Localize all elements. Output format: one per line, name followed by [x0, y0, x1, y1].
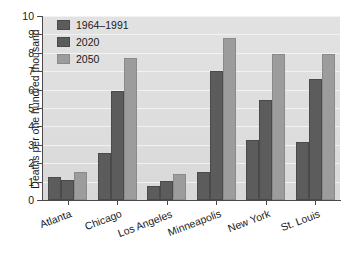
- legend-item: 1964–1991: [57, 17, 129, 32]
- x-tick-label: Los Angeles: [116, 207, 174, 239]
- bar: [74, 172, 87, 200]
- bar: [160, 181, 173, 200]
- y-tick-label: 9: [12, 28, 34, 40]
- y-axis-line: [42, 16, 43, 201]
- bar: [272, 54, 285, 200]
- y-tick-label: 4: [12, 120, 34, 132]
- y-tick-label: 7: [12, 65, 34, 77]
- y-tick-label: 1: [12, 176, 34, 188]
- legend-swatch-icon: [57, 20, 70, 30]
- bar: [322, 54, 335, 200]
- x-tick-label: Minneapolis: [166, 207, 223, 238]
- bar: [223, 38, 236, 200]
- bar: [98, 153, 111, 200]
- bar: [147, 186, 160, 200]
- y-tick-label: 5: [12, 102, 34, 114]
- legend-swatch-icon: [57, 54, 70, 64]
- legend-item: 2050: [57, 51, 129, 66]
- x-tick-label: New York: [226, 207, 272, 234]
- chart-legend: 1964–199120202050: [57, 17, 129, 68]
- bar: [111, 91, 124, 200]
- bar-chart-figure: Deaths per one hundred thousand 01234567…: [0, 0, 346, 254]
- legend-label: 2020: [76, 36, 99, 48]
- bar: [296, 142, 309, 200]
- y-tick-label: 3: [12, 139, 34, 151]
- y-tick-label: 2: [12, 157, 34, 169]
- legend-label: 2050: [76, 53, 99, 65]
- y-tick-label: 8: [12, 47, 34, 59]
- y-tick-label: 6: [12, 84, 34, 96]
- bar: [173, 174, 186, 200]
- bar: [48, 177, 61, 200]
- x-axis-line: [42, 200, 341, 201]
- gridline: [43, 90, 340, 91]
- legend-swatch-icon: [57, 37, 70, 47]
- bar: [246, 140, 259, 200]
- gridline: [43, 126, 340, 127]
- x-tick-label: Atlanta: [38, 208, 73, 231]
- bar: [124, 58, 137, 200]
- x-tick-mark: [315, 201, 316, 205]
- gridline: [43, 108, 340, 109]
- bar: [197, 172, 210, 200]
- x-tick-mark: [117, 201, 118, 205]
- bar: [309, 79, 322, 200]
- bar: [259, 100, 272, 200]
- bar: [210, 71, 223, 200]
- gridline: [43, 71, 340, 72]
- x-tick-mark: [167, 201, 168, 205]
- x-tick-mark: [266, 201, 267, 205]
- bar: [61, 180, 74, 200]
- x-tick-mark: [68, 201, 69, 205]
- y-tick-label: 10: [12, 10, 34, 22]
- x-tick-mark: [216, 201, 217, 205]
- y-tick-label: 0: [12, 194, 34, 206]
- legend-item: 2020: [57, 34, 129, 49]
- x-tick-label: St. Louis: [279, 208, 321, 234]
- legend-label: 1964–1991: [76, 19, 129, 31]
